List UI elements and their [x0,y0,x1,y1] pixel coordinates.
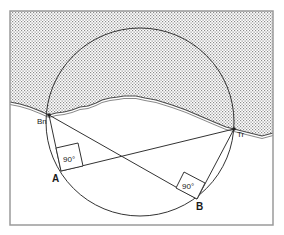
survey-diagram: Bn Tr A B 90° 90° [0,0,284,235]
label-A: A [52,173,59,184]
angle-label-B: 90° [182,182,194,191]
label-Tr: Tr [237,130,245,139]
point-Bn-marker [47,113,51,117]
label-B: B [196,201,203,212]
point-Tr-marker [232,127,236,131]
angle-label-A: 90° [63,155,75,164]
line-A-Tr [61,129,234,171]
label-Bn: Bn [37,117,47,126]
